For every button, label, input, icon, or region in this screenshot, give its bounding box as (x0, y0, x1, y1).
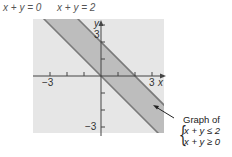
tick-label-x-3: 3 (149, 78, 155, 88)
annotation-title: Graph of (183, 114, 220, 125)
inequality-1: x + y ≤ 2 (184, 125, 220, 136)
inequality-system: x + y ≤ 2 x + y ≥ 0 (184, 125, 220, 147)
inequality-2: x + y ≥ 0 (184, 136, 220, 147)
tick-label-x-neg3: −3 (42, 78, 53, 88)
label-line-x-plus-y-eq-0: x + y = 0 (3, 3, 41, 13)
tick-label-y-3: 3 (94, 30, 100, 40)
label-line-x-plus-y-eq-2: x + y = 2 (57, 3, 95, 13)
tick-label-y-neg3: −3 (85, 122, 96, 132)
x-axis-label: x (158, 78, 163, 88)
y-axis-label: y (94, 19, 99, 29)
